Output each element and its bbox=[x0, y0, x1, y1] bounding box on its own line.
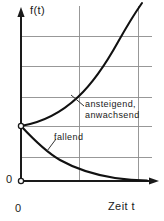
exponential-functions-figure: f(t) Zeit t 0 0 ansteigend, anwachsend f… bbox=[0, 0, 164, 221]
x-axis-arrowhead bbox=[149, 177, 159, 184]
x-axis-label: Zeit t bbox=[108, 200, 135, 212]
curve-falling bbox=[21, 126, 147, 181]
x-axis-origin-tick-label: 0 bbox=[15, 202, 22, 214]
annotation-rising-curve: ansteigend, anwachsend bbox=[85, 99, 140, 121]
y-axis-arrowhead bbox=[17, 7, 24, 17]
origin-point-marker bbox=[18, 178, 23, 183]
y-axis-label: f(t) bbox=[30, 4, 45, 16]
curves bbox=[21, 3, 147, 181]
grid bbox=[21, 6, 152, 181]
leader-lines bbox=[47, 95, 84, 151]
y-axis-origin-tick-label: 0 bbox=[6, 173, 13, 185]
annotation-rising-line-1: ansteigend, bbox=[85, 99, 140, 110]
annotation-falling-curve: fallend bbox=[54, 132, 83, 142]
curve-start-marker bbox=[18, 123, 23, 128]
annotation-rising-line-2: anwachsend bbox=[85, 110, 140, 121]
